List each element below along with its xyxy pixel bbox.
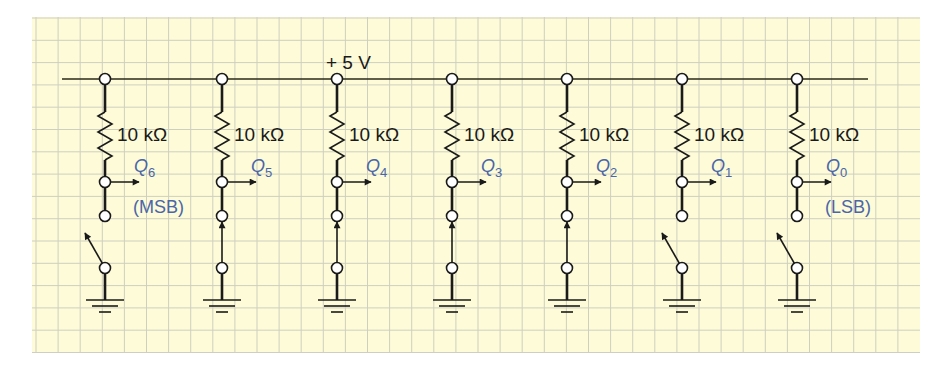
terminal-node (562, 211, 573, 222)
terminal-node (792, 177, 803, 188)
terminal-node (332, 74, 343, 85)
terminal-node (332, 263, 343, 274)
terminal-node (447, 263, 458, 274)
terminal-node (792, 211, 803, 222)
terminal-node (447, 74, 458, 85)
terminal-node (677, 74, 688, 85)
terminal-node (100, 177, 111, 188)
terminal-node (217, 263, 228, 274)
resistor-label: 10 kΩ (117, 124, 167, 145)
resistor-label: 10 kΩ (464, 124, 514, 145)
terminal-node (217, 177, 228, 188)
terminal-node (792, 263, 803, 274)
terminal-node (562, 177, 573, 188)
circuit-diagram: + 5 V 10 kΩQ6(MSB)10 kΩQ510 kΩQ410 kΩQ31… (0, 0, 945, 371)
terminal-node (562, 74, 573, 85)
terminal-node (792, 74, 803, 85)
bit-significance-label: (MSB) (133, 197, 184, 217)
terminal-node (217, 211, 228, 222)
terminal-node (332, 177, 343, 188)
terminal-node (447, 211, 458, 222)
resistor-label: 10 kΩ (579, 124, 629, 145)
terminal-node (100, 263, 111, 274)
terminal-node (100, 74, 111, 85)
terminal-node (447, 177, 458, 188)
terminal-node (217, 74, 228, 85)
terminal-node (677, 177, 688, 188)
terminal-node (677, 263, 688, 274)
terminal-node (562, 263, 573, 274)
terminal-node (332, 211, 343, 222)
resistor-label: 10 kΩ (349, 124, 399, 145)
graph-paper (32, 17, 920, 353)
resistor-label: 10 kΩ (694, 124, 744, 145)
terminal-node (100, 211, 111, 222)
resistor-label: 10 kΩ (809, 124, 859, 145)
bit-significance-label: (LSB) (825, 197, 871, 217)
supply-label: + 5 V (326, 52, 371, 73)
resistor-label: 10 kΩ (234, 124, 284, 145)
terminal-node (677, 211, 688, 222)
